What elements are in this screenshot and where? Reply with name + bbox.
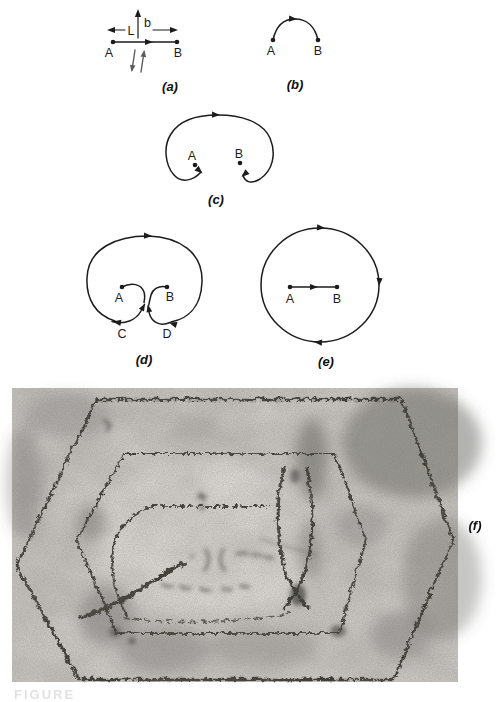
point-a-label: A [188, 149, 197, 163]
length-dimension-arrows [107, 27, 178, 33]
point-b-label: B [314, 44, 322, 58]
point-b-label: B [235, 147, 243, 161]
pinning-point-b [175, 40, 180, 45]
panel-a: b L A B [95, 0, 205, 100]
panel-e-label: (e) [310, 354, 342, 369]
panel-c-label: (c) [200, 192, 232, 207]
burgers-symbol-label: b [144, 16, 151, 30]
panel-e: A B [252, 222, 402, 374]
pinning-point-a [120, 285, 125, 290]
length-symbol-label: L [128, 24, 135, 38]
figure-caption-fragment: FIGURE [14, 687, 75, 702]
bowed-dislocation-line [271, 15, 321, 42]
lobe-c-label: C [117, 327, 126, 341]
regenerated-segment [288, 284, 340, 290]
panel-a-label: (a) [154, 79, 186, 94]
pinning-point-a [111, 40, 116, 45]
point-a-label: A [115, 291, 124, 305]
panel-d-label: (d) [128, 352, 160, 367]
outer-loop-line [87, 233, 202, 328]
pinning-point-b [238, 161, 243, 166]
panel-e-diagram: A B [252, 222, 402, 374]
panel-f-label: (f) [459, 518, 491, 533]
dislocation-segment [111, 39, 180, 45]
pinning-point-a [288, 285, 293, 290]
grain-overlay [12, 388, 458, 682]
expanding-loop-line [166, 112, 273, 182]
point-b-label: B [166, 290, 174, 304]
pinning-point-a [193, 163, 198, 168]
pinning-point-b [316, 38, 321, 43]
point-a-label: A [105, 46, 114, 60]
shear-stress-arrows [129, 50, 147, 73]
cusp-segments [120, 284, 170, 305]
panel-f-micrograph [12, 388, 458, 682]
micrograph-image [12, 388, 458, 682]
panel-a-diagram: b L A B [95, 0, 205, 100]
burgers-vector-arrow [135, 9, 141, 38]
point-a-label: A [286, 292, 295, 306]
pinning-point-b [335, 285, 340, 290]
pinning-point-b [165, 285, 170, 290]
lobe-d-label: D [162, 327, 171, 341]
pinning-point-a [271, 38, 276, 43]
point-b-label: B [333, 292, 341, 306]
point-a-label: A [267, 44, 276, 58]
closed-loop-line [261, 224, 383, 345]
panel-b-label: (b) [279, 77, 311, 92]
point-b-label: B [174, 46, 182, 60]
